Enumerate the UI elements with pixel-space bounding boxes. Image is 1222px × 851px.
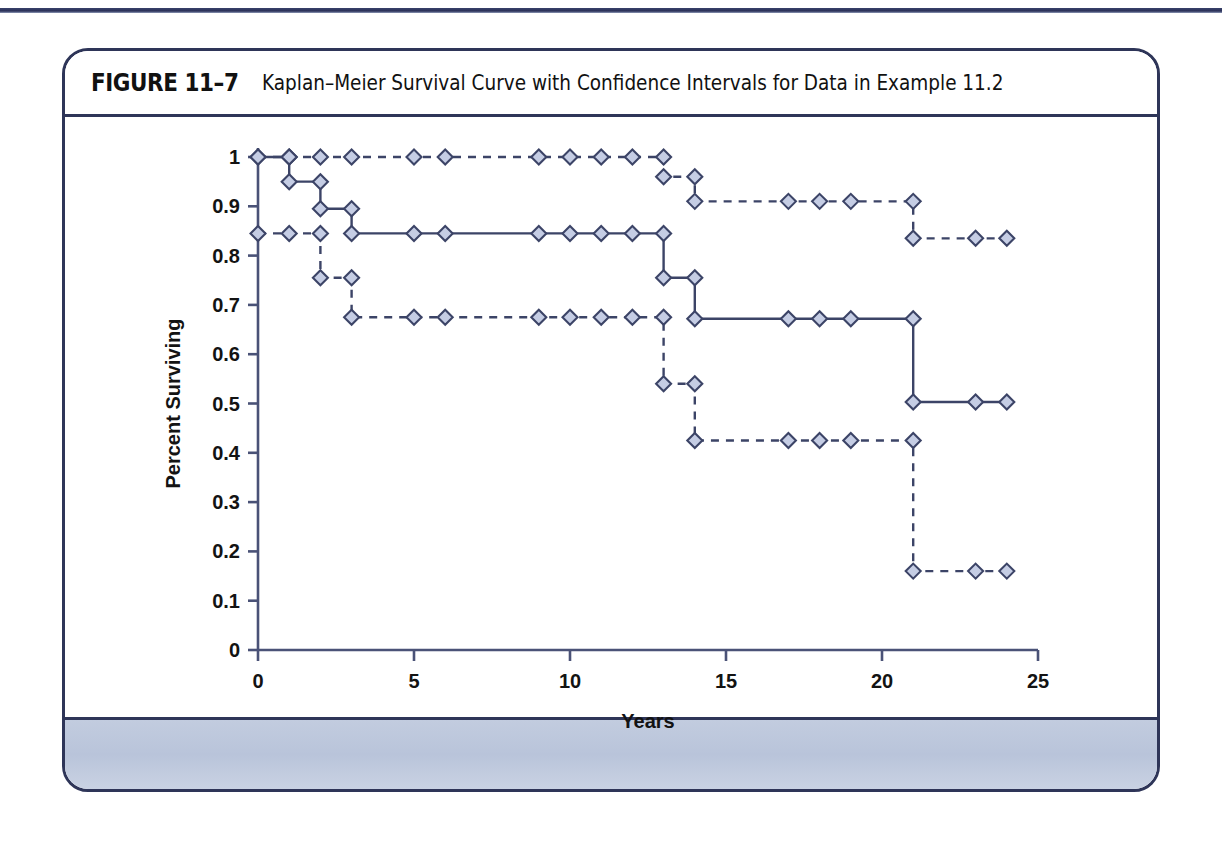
figure-container: FIGURE 11–7 Kaplan–Meier Survival Curve … xyxy=(62,48,1160,792)
figure-caption-bar: FIGURE 11–7 Kaplan–Meier Survival Curve … xyxy=(65,51,1157,117)
figure-number-label: FIGURE 11–7 xyxy=(91,68,238,97)
figure-footer-band xyxy=(65,717,1157,789)
figure-plot-area xyxy=(65,117,1157,720)
figure-page: FIGURE 11–7 Kaplan–Meier Survival Curve … xyxy=(0,0,1222,851)
figure-title: Kaplan–Meier Survival Curve with Confide… xyxy=(262,71,1003,95)
page-top-rule xyxy=(0,8,1222,13)
